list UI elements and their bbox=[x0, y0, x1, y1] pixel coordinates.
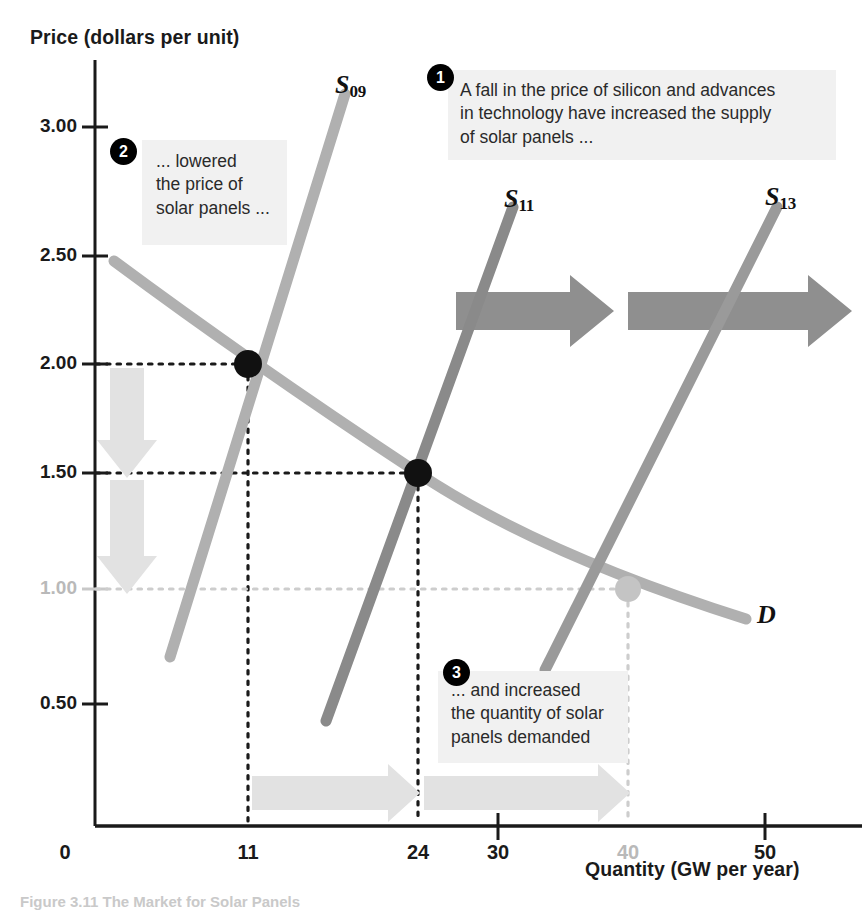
callout-badge-2: 2 bbox=[110, 138, 137, 165]
y-tick-label-3-00: 3.00 bbox=[5, 115, 77, 137]
equilibrium-point-e11 bbox=[404, 459, 432, 487]
callout-2-line-2: the price of bbox=[156, 173, 287, 196]
y-tick-label-1-50: 1.50 bbox=[5, 461, 77, 483]
callout-1-line-1: A fall in the price of silicon and advan… bbox=[460, 79, 824, 102]
x-tick-label-0: 0 bbox=[35, 841, 95, 864]
curve-label-s09: S09 bbox=[335, 70, 366, 102]
callout-1-line-3: of solar panels ... bbox=[460, 126, 824, 149]
curve-label-d: D bbox=[757, 600, 776, 630]
curve-label-s13-sub: 13 bbox=[779, 194, 795, 213]
equilibrium-point-e09 bbox=[234, 350, 262, 378]
callout-box-1: A fall in the price of silicon and advan… bbox=[448, 70, 836, 160]
x-tick-label-11: 11 bbox=[218, 841, 278, 864]
curve-label-s09-main: S bbox=[335, 70, 349, 99]
curve-label-d-main: D bbox=[757, 600, 776, 629]
price-arrow-200-to-150 bbox=[97, 368, 157, 478]
callout-1-line-2: in technology have increased the supply bbox=[460, 102, 824, 125]
callout-box-3: ... and increased the quantity of solar … bbox=[438, 671, 628, 763]
curve-label-s11-sub: 11 bbox=[518, 196, 533, 215]
y-tick-label-1-00: 1.00 bbox=[5, 577, 77, 599]
callout-3-line-3: panels demanded bbox=[451, 726, 628, 749]
x-tick-label-30: 30 bbox=[468, 841, 528, 864]
curve-label-s13-main: S bbox=[765, 182, 779, 211]
supply-shift-arrows bbox=[456, 275, 852, 347]
callout-2-line-1: ... lowered bbox=[156, 150, 287, 173]
curve-label-s11-main: S bbox=[504, 184, 518, 213]
y-tick-label-0-50: 0.50 bbox=[5, 692, 77, 714]
callout-badge-1: 1 bbox=[427, 64, 454, 91]
callout-2-line-3: solar panels ... bbox=[156, 197, 287, 220]
y-tick-label-2-50: 2.50 bbox=[5, 244, 77, 266]
supply-curve-s13 bbox=[545, 207, 777, 670]
x-tick-label-24: 24 bbox=[388, 841, 448, 864]
quantity-arrow-24-to-40 bbox=[424, 764, 630, 822]
x-tick-label-40: 40 bbox=[598, 841, 658, 864]
curve-label-s13: S13 bbox=[765, 182, 796, 214]
callout-badge-3: 3 bbox=[443, 659, 470, 686]
curve-label-s09-sub: 09 bbox=[349, 82, 365, 101]
price-fall-arrows bbox=[97, 368, 157, 594]
equilibrium-point-e13 bbox=[615, 576, 641, 602]
price-arrow-150-to-100 bbox=[97, 480, 157, 594]
quantity-arrow-11-to-24 bbox=[252, 764, 420, 822]
y-tick-label-2-00: 2.00 bbox=[5, 352, 77, 374]
callout-3-line-1: ... and increased bbox=[451, 679, 628, 702]
callout-box-2: ... lowered the price of solar panels ..… bbox=[142, 140, 287, 245]
x-tick-label-50: 50 bbox=[735, 841, 795, 864]
quantity-rise-arrows bbox=[252, 764, 630, 822]
figure-container: Price (dollars per unit) Quantity (GW pe… bbox=[0, 0, 865, 912]
figure-caption: Figure 3.11 The Market for Solar Panels bbox=[20, 893, 300, 910]
callout-3-line-2: the quantity of solar bbox=[451, 702, 628, 725]
curve-label-s11: S11 bbox=[504, 184, 534, 216]
y-axis-title: Price (dollars per unit) bbox=[30, 26, 239, 49]
